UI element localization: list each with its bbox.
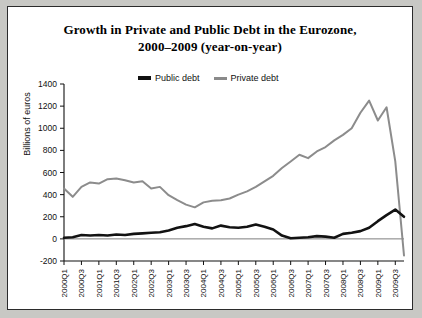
x-tick-label: 2009Q3 (391, 268, 400, 297)
y-tick-label: 1200 (38, 101, 57, 111)
y-tick-label: 800 (43, 145, 57, 155)
y-tick-label: 400 (43, 190, 57, 200)
x-tick-label: 2003Q1 (165, 268, 174, 297)
x-tick-label: 2005Q3 (252, 268, 261, 297)
plot-area: Billions of euros -200020040060080010001… (8, 7, 414, 311)
x-tick-label: 2000Q3 (77, 268, 86, 297)
chart-figure: Growth in Private and Public Debt in the… (7, 6, 413, 310)
x-tick-label: 2008Q3 (356, 268, 365, 297)
chart-canvas: -20002004006008001000120014002000Q12000Q… (8, 7, 414, 311)
x-tick-label: 2000Q1 (60, 268, 69, 297)
x-tick-label: 2002Q3 (147, 268, 156, 297)
y-tick-label: 200 (43, 212, 57, 222)
series-line-public-debt (64, 210, 404, 239)
x-tick-label: 2006Q3 (287, 268, 296, 297)
y-tick-label: 1000 (38, 123, 57, 133)
x-tick-label: 2008Q1 (339, 268, 348, 297)
x-tick-label: 2007Q3 (322, 268, 331, 297)
y-tick-label: 0 (52, 234, 57, 244)
x-tick-label: 2001Q3 (112, 268, 121, 297)
y-axis-title: Billions of euros (22, 69, 32, 179)
x-tick-label: 2006Q1 (269, 268, 278, 297)
y-tick-label: -200 (40, 256, 57, 266)
x-tick-label: 2004Q1 (199, 268, 208, 297)
x-tick-label: 2002Q1 (130, 268, 139, 297)
y-tick-label: 600 (43, 168, 57, 178)
x-tick-label: 2007Q1 (304, 268, 313, 297)
x-tick-label: 2005Q1 (234, 268, 243, 297)
x-tick-label: 2001Q1 (95, 268, 104, 297)
x-tick-label: 2003Q3 (182, 268, 191, 297)
x-tick-label: 2009Q1 (374, 268, 383, 297)
x-tick-label: 2004Q3 (217, 268, 226, 297)
y-tick-label: 1400 (38, 79, 57, 89)
